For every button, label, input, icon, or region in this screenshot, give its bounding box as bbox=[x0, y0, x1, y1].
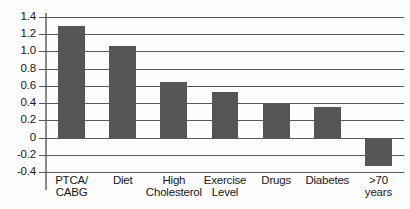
y-axis-tick bbox=[39, 17, 46, 18]
bar bbox=[365, 138, 392, 166]
y-axis-tick-label: 1.0 bbox=[2, 45, 36, 56]
y-axis-tick-label: 0 bbox=[2, 132, 36, 143]
x-axis-label-layer: PTCA/ CABGDietHigh CholesterolExercise L… bbox=[46, 174, 404, 209]
plot-area bbox=[46, 17, 404, 172]
gridline bbox=[46, 155, 404, 156]
y-axis-tick-label: 0.6 bbox=[2, 80, 36, 91]
y-axis-tick bbox=[39, 172, 46, 173]
y-axis-tick-label: -0.2 bbox=[2, 149, 36, 160]
y-axis-tick bbox=[39, 34, 46, 35]
y-axis-tick bbox=[39, 120, 46, 121]
gridline bbox=[46, 69, 404, 70]
y-axis-tick-label: 0.4 bbox=[2, 97, 36, 108]
gridline bbox=[46, 34, 404, 35]
y-axis-tick-label: 0.2 bbox=[2, 114, 36, 125]
bar bbox=[212, 92, 239, 138]
y-axis-tick bbox=[39, 103, 46, 104]
bar-chart: 1.41.21.00.80.60.40.20-0.2-0.4 PTCA/ CAB… bbox=[0, 0, 410, 209]
y-axis-tick bbox=[39, 51, 46, 52]
gridline bbox=[46, 17, 404, 18]
y-axis-tick-label: 0.8 bbox=[2, 63, 36, 74]
y-axis-tick bbox=[39, 86, 46, 87]
gridline bbox=[46, 86, 404, 87]
bar bbox=[314, 107, 341, 137]
y-axis-tick bbox=[39, 155, 46, 156]
y-axis-tick bbox=[39, 69, 46, 70]
bar bbox=[58, 26, 85, 137]
x-axis-label: >70 years bbox=[328, 174, 410, 199]
gridline bbox=[46, 172, 404, 173]
y-axis-tick-label: 1.4 bbox=[2, 11, 36, 22]
bar bbox=[109, 46, 136, 137]
y-axis-tick-label: 1.2 bbox=[2, 28, 36, 39]
bar bbox=[263, 104, 290, 138]
bar bbox=[160, 82, 187, 138]
y-axis-tick bbox=[39, 138, 46, 139]
gridline bbox=[46, 138, 404, 139]
gridline bbox=[46, 51, 404, 52]
